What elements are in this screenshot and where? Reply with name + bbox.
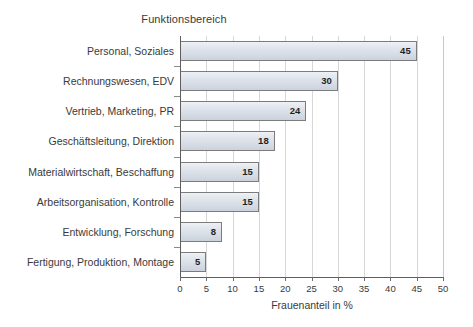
category-axis-tick — [174, 96, 180, 97]
value-axis-tick-label: 25 — [300, 283, 324, 294]
value-axis-tick-label: 50 — [431, 283, 455, 294]
gridline — [443, 36, 444, 277]
category-axis-labels: Personal, SozialesRechnungswesen, EDVVer… — [0, 0, 180, 327]
bar-value-label: 24 — [290, 107, 301, 117]
category-axis-tick — [174, 247, 180, 248]
category-axis-tick — [174, 157, 180, 158]
bar: 18 — [180, 131, 275, 151]
value-axis-tick-label: 30 — [326, 283, 350, 294]
value-axis-tick — [338, 277, 339, 281]
category-label: Entwicklung, Forschung — [8, 226, 180, 238]
category-label: Materialwirtschaft, Beschaffung — [8, 166, 180, 178]
category-label: Geschäftsleitung, Direktion — [8, 135, 180, 147]
category-label: Personal, Soziales — [8, 45, 180, 57]
value-axis-tick-label: 45 — [405, 283, 429, 294]
value-axis-tick-label: 5 — [194, 283, 218, 294]
value-axis-tick — [285, 277, 286, 281]
bar: 15 — [180, 192, 259, 212]
value-axis-tick — [417, 277, 418, 281]
value-axis-tick — [233, 277, 234, 281]
category-label: Vertrieb, Marketing, PR — [8, 105, 180, 117]
value-axis-tick-label: 0 — [168, 283, 192, 294]
bar-value-label: 45 — [400, 46, 411, 56]
category-axis-tick — [174, 187, 180, 188]
plot-area: 45302418151585 — [180, 36, 443, 277]
bar-value-label: 15 — [242, 197, 253, 207]
bar: 30 — [180, 71, 338, 91]
value-axis-tick — [364, 277, 365, 281]
value-axis-title: Frauenanteil in % — [180, 299, 444, 311]
bar: 5 — [180, 252, 206, 272]
bar-value-label: 5 — [195, 257, 200, 267]
category-axis-tick — [174, 217, 180, 218]
category-axis-tick — [174, 126, 180, 127]
category-axis-tick — [174, 66, 180, 67]
value-axis-tick — [180, 277, 181, 281]
bar: 15 — [180, 162, 259, 182]
bar-value-label: 8 — [211, 227, 216, 237]
category-label: Rechnungswesen, EDV — [8, 75, 180, 87]
gridline — [390, 36, 391, 277]
gridline — [417, 36, 418, 277]
value-axis-tick-label: 15 — [247, 283, 271, 294]
bar-chart: Funktionsbereich Personal, SozialesRechn… — [0, 0, 473, 327]
category-label: Fertigung, Produktion, Montage — [8, 256, 180, 268]
value-axis-tick-label: 10 — [221, 283, 245, 294]
bar: 45 — [180, 41, 417, 61]
value-axis-tick — [312, 277, 313, 281]
value-axis-tick — [259, 277, 260, 281]
value-axis-tick — [206, 277, 207, 281]
value-axis-tick-label: 20 — [273, 283, 297, 294]
bar-value-label: 15 — [242, 167, 253, 177]
value-axis-tick — [443, 277, 444, 281]
bar: 8 — [180, 222, 222, 242]
value-axis-tick-label: 35 — [352, 283, 376, 294]
value-axis-tick — [390, 277, 391, 281]
value-axis-tick-label: 40 — [378, 283, 402, 294]
gridline — [364, 36, 365, 277]
category-axis-line — [180, 36, 181, 278]
category-label: Arbeitsorganisation, Kontrolle — [8, 196, 180, 208]
gridline — [338, 36, 339, 277]
bar-value-label: 18 — [258, 137, 269, 147]
bar: 24 — [180, 101, 306, 121]
bar-value-label: 30 — [321, 76, 332, 86]
